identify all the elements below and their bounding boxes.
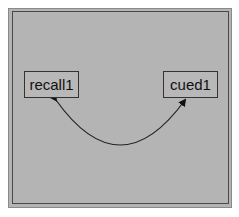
node-recall1[interactable]: recall1 (24, 71, 79, 98)
node-label: cued1 (170, 76, 211, 93)
covariance-arrow (0, 0, 239, 217)
node-cued1[interactable]: cued1 (163, 71, 218, 98)
node-label: recall1 (29, 76, 73, 93)
